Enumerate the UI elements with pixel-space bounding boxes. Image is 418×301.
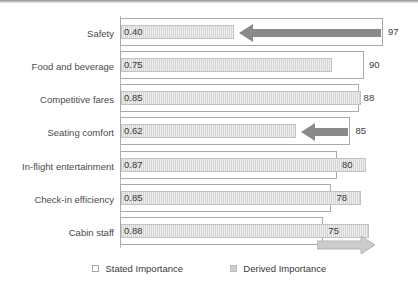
bar-derived-importance (121, 58, 332, 72)
value-label-derived: 0.87 (124, 158, 143, 172)
category-label-cabin-staff: Cabin staff (2, 226, 114, 240)
bar-row: Seating comfort0.6285 (120, 115, 406, 148)
bar-row: Safety0.4097 (120, 16, 406, 49)
category-label-seating-comfort: Seating comfort (2, 126, 114, 140)
bar-row: Food and beverage0.7590 (120, 49, 406, 82)
bar-derived-importance (121, 124, 296, 138)
value-label-stated: 80 (342, 158, 353, 172)
category-label-food-and-beverage: Food and beverage (2, 60, 114, 74)
bar-row: In-flight entertainment0.8780 (120, 149, 406, 182)
bar-row: Competitive fares0.8588 (120, 82, 406, 115)
value-label-derived: 0.88 (124, 224, 143, 238)
value-label-stated: 97 (388, 25, 399, 39)
legend-label-stated: Stated Importance (105, 263, 183, 274)
legend-swatch-derived-icon (230, 265, 237, 272)
category-label-competitive-fares: Competitive fares (2, 93, 114, 107)
bar-derived-importance (121, 158, 366, 172)
category-label-safety: Safety (2, 27, 114, 41)
value-label-stated: 78 (336, 191, 347, 205)
value-label-derived: 0.75 (124, 58, 143, 72)
bar-row: Cabin staff0.8875 (120, 215, 406, 248)
legend-swatch-stated-icon (92, 265, 99, 272)
legend-label-derived: Derived Importance (243, 263, 326, 274)
value-label-stated: 88 (364, 91, 375, 105)
bar-derived-importance (121, 191, 361, 205)
value-label-derived: 0.62 (124, 124, 143, 138)
value-label-derived: 0.85 (124, 191, 143, 205)
value-label-stated: 75 (328, 224, 339, 238)
value-label-derived: 0.40 (124, 25, 143, 39)
plot-area: Safety0.4097Food and beverage0.7590Compe… (120, 16, 406, 248)
category-label-in-flight-entertainment: In-flight entertainment (2, 160, 114, 174)
bar-derived-importance (121, 91, 361, 105)
legend-item-derived: Derived Importance (230, 262, 327, 274)
value-label-derived: 0.85 (124, 91, 143, 105)
legend-item-stated: Stated Importance (92, 262, 183, 274)
value-label-stated: 85 (355, 124, 366, 138)
category-label-check-in-efficiency: Check-in efficiency (2, 193, 114, 207)
bar-row: Check-in efficiency0.8578 (120, 182, 406, 215)
chart-legend: Stated Importance Derived Importance (0, 262, 418, 274)
value-label-stated: 90 (369, 58, 380, 72)
importance-bar-chart: Safety0.4097Food and beverage0.7590Compe… (0, 0, 418, 301)
